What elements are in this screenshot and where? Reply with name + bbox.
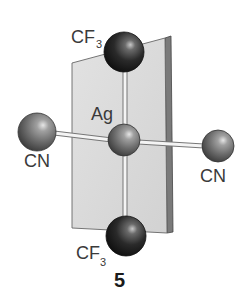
atom-cn-right: [202, 130, 234, 162]
label-cn-left: CN: [24, 151, 50, 171]
label-cf3-bottom-subscript: 3: [100, 256, 106, 268]
atom-cn-left: [18, 113, 56, 151]
label-cf3-bottom: CF: [76, 243, 100, 263]
atom-cf3-top: [104, 32, 144, 72]
label-cf3-top-subscript: 3: [96, 38, 102, 50]
atom-ag-center: [108, 124, 140, 156]
label-ag: Ag: [91, 104, 113, 124]
atom-cf3-bottom: [106, 216, 146, 256]
label-cf3-top: CF: [71, 27, 95, 47]
label-cn-right: CN: [200, 166, 226, 186]
compound-number: 5: [114, 269, 125, 291]
silver-complex-diagram: CF 3 Ag CN CN CF 3 5: [0, 0, 248, 299]
